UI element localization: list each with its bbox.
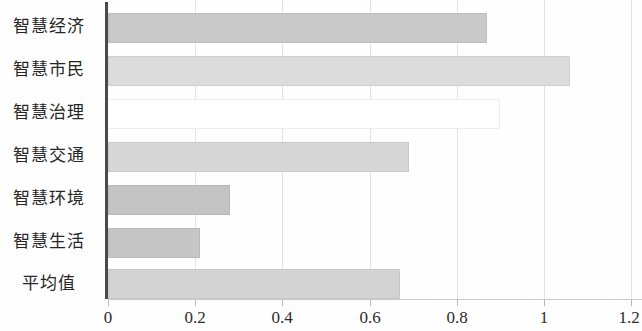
plot-area bbox=[108, 0, 642, 299]
bar-0 bbox=[108, 13, 487, 43]
bar-1 bbox=[108, 56, 570, 86]
x-tick-label-5: 1 bbox=[540, 306, 549, 330]
x-tick-label-0: 0 bbox=[104, 306, 113, 330]
gridline-0.8 bbox=[457, 0, 458, 299]
bar-chart: 智慧经济 智慧市民 智慧治理 智慧交通 智慧环境 智慧生活 平均值 0 0.2 bbox=[0, 0, 642, 331]
bar-2 bbox=[108, 99, 500, 129]
category-label-4: 智慧环境 bbox=[0, 190, 99, 207]
gridline-1 bbox=[544, 0, 545, 299]
x-tick-label-2: 0.4 bbox=[271, 306, 292, 330]
gridline-1.2 bbox=[631, 0, 632, 299]
category-label-3: 智慧交通 bbox=[0, 147, 99, 164]
bar-3 bbox=[108, 142, 409, 172]
x-tick-label-1: 0.2 bbox=[184, 306, 205, 330]
x-axis: 0 0.2 0.4 0.6 0.8 1 1.2 bbox=[0, 300, 642, 331]
bar-6 bbox=[108, 269, 400, 299]
y-axis-line bbox=[105, 2, 108, 299]
category-label-1: 智慧市民 bbox=[0, 61, 99, 78]
bar-4 bbox=[108, 185, 230, 215]
x-tick-label-4: 0.8 bbox=[446, 306, 467, 330]
category-label-5: 智慧生活 bbox=[0, 233, 99, 250]
x-tick-label-6: 1.2 bbox=[618, 306, 639, 330]
category-axis: 智慧经济 智慧市民 智慧治理 智慧交通 智慧环境 智慧生活 平均值 bbox=[0, 0, 107, 300]
bar-5 bbox=[108, 228, 200, 258]
category-label-0: 智慧经济 bbox=[0, 18, 99, 35]
x-tick-label-3: 0.6 bbox=[359, 306, 380, 330]
category-label-6: 平均值 bbox=[0, 275, 99, 292]
category-label-2: 智慧治理 bbox=[0, 104, 99, 121]
